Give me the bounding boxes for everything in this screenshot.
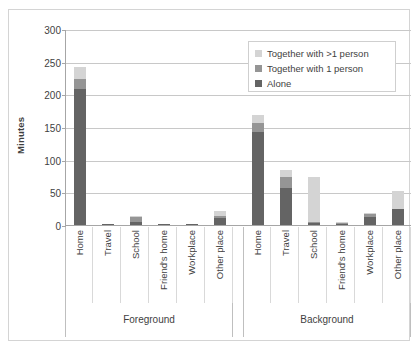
bar-segment bbox=[102, 224, 114, 225]
stacked-bar[interactable] bbox=[252, 115, 264, 225]
legend-label: Together with 1 person bbox=[267, 63, 363, 74]
bar-segment bbox=[280, 188, 292, 225]
x-axis-label-cell: Other place bbox=[383, 227, 411, 303]
x-group-label: Background bbox=[244, 314, 410, 325]
legend-item[interactable]: Alone bbox=[255, 76, 389, 90]
bar-segment bbox=[364, 217, 376, 225]
bar-slot bbox=[178, 30, 206, 225]
x-axis-label: Travel bbox=[101, 230, 112, 256]
stacked-bar[interactable] bbox=[280, 170, 292, 225]
bar-segment bbox=[280, 170, 292, 177]
bar-slot bbox=[94, 30, 122, 225]
x-axis-label-cell: Home bbox=[65, 227, 93, 303]
x-group-foreground: Foreground bbox=[65, 303, 233, 337]
x-axis-label: Friend's home bbox=[335, 230, 346, 290]
x-axis-label-cell: School bbox=[121, 227, 149, 303]
x-axis-label: Friend's home bbox=[157, 230, 168, 290]
bar-slot bbox=[122, 30, 150, 225]
legend-label: Together with >1 person bbox=[267, 48, 369, 59]
bar-segment bbox=[308, 223, 320, 225]
y-axis-title: Minutes bbox=[15, 100, 31, 170]
x-axis-group-band: ForegroundBackground bbox=[65, 303, 411, 337]
stacked-bar[interactable] bbox=[102, 224, 114, 225]
bar-segment bbox=[252, 132, 264, 225]
stacked-bar[interactable] bbox=[308, 177, 320, 225]
x-group-label: Foreground bbox=[66, 314, 232, 325]
bar-segment bbox=[130, 222, 142, 225]
legend-swatch-icon bbox=[255, 80, 262, 87]
y-axis-tick-50: 50 bbox=[31, 188, 61, 199]
x-axis-label-cell: Travel bbox=[93, 227, 121, 303]
chart-frame: Minutes 050100150200250300 HomeTravelSch… bbox=[8, 9, 410, 341]
bar-segment bbox=[214, 218, 226, 225]
bar-segment bbox=[158, 224, 170, 225]
x-axis-label: Workplace bbox=[363, 230, 374, 275]
stacked-bar[interactable] bbox=[364, 213, 376, 225]
x-axis-label: Home bbox=[74, 230, 85, 255]
y-axis-tick-labels: 050100150200250300 bbox=[31, 10, 61, 340]
stacked-bar[interactable] bbox=[130, 216, 142, 225]
x-axis-label: School bbox=[307, 230, 318, 259]
x-axis-label-cell: Workplace bbox=[177, 227, 205, 303]
y-axis-tick-200: 200 bbox=[31, 90, 61, 101]
bar-segment bbox=[186, 224, 198, 225]
x-axis-label: School bbox=[129, 230, 140, 259]
bar-segment bbox=[252, 123, 264, 131]
x-axis-label-cell: Workplace bbox=[355, 227, 383, 303]
x-axis-label-cell: Home bbox=[243, 227, 271, 303]
bar-segment bbox=[280, 177, 292, 187]
y-axis-tick-150: 150 bbox=[31, 123, 61, 134]
x-axis-label-cell: Friend's home bbox=[327, 227, 355, 303]
stacked-bar[interactable] bbox=[158, 224, 170, 225]
bar-segment bbox=[74, 89, 86, 225]
x-axis-label-cell: Other place bbox=[205, 227, 233, 303]
stacked-bar[interactable] bbox=[74, 67, 86, 225]
x-axis-label-cell: Friend's home bbox=[149, 227, 177, 303]
x-axis-label: Home bbox=[252, 230, 263, 255]
x-axis-category-band: HomeTravelSchoolFriend's homeWorkplaceOt… bbox=[65, 227, 411, 303]
y-axis-tick-250: 250 bbox=[31, 57, 61, 68]
legend-item[interactable]: Together with 1 person bbox=[255, 61, 389, 75]
bar-slot bbox=[150, 30, 178, 225]
y-axis-tick-300: 300 bbox=[31, 25, 61, 36]
bar-slot bbox=[66, 30, 94, 225]
legend-item[interactable]: Together with >1 person bbox=[255, 46, 389, 60]
x-axis-label: Travel bbox=[279, 230, 290, 256]
chart-legend: Together with >1 personTogether with 1 p… bbox=[248, 41, 396, 92]
y-axis-tick-0: 0 bbox=[31, 221, 61, 232]
bar-slot bbox=[206, 30, 234, 225]
legend-label: Alone bbox=[267, 78, 291, 89]
legend-swatch-icon bbox=[255, 50, 262, 57]
stacked-bar[interactable] bbox=[392, 191, 404, 225]
x-axis-label: Other place bbox=[213, 230, 224, 279]
stacked-bar[interactable] bbox=[214, 211, 226, 225]
x-group-background: Background bbox=[243, 303, 411, 337]
bar-segment bbox=[336, 224, 348, 225]
x-axis-label: Other place bbox=[391, 230, 402, 279]
bar-segment bbox=[392, 209, 404, 225]
bar-segment bbox=[74, 67, 86, 79]
bar-segment bbox=[308, 177, 320, 222]
bar-segment bbox=[74, 79, 86, 89]
bar-segment bbox=[392, 191, 404, 209]
bar-segment bbox=[252, 115, 264, 123]
x-axis-label-cell: Travel bbox=[271, 227, 299, 303]
stacked-bar[interactable] bbox=[186, 224, 198, 225]
x-axis-label-cell: School bbox=[299, 227, 327, 303]
legend-swatch-icon bbox=[255, 65, 262, 72]
stacked-bar[interactable] bbox=[336, 222, 348, 225]
x-axis-label: Workplace bbox=[185, 230, 196, 275]
y-axis-tick-100: 100 bbox=[31, 155, 61, 166]
